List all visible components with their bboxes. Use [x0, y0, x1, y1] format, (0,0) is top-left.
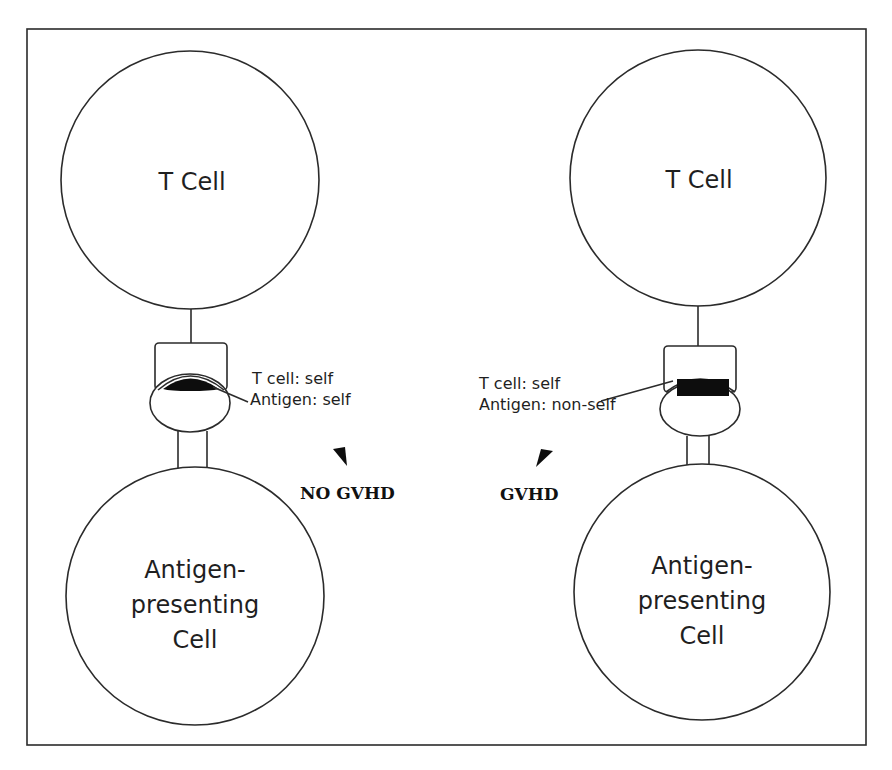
apc-label-line-1: Antigen-: [651, 552, 753, 580]
apc-label-line-2: presenting: [131, 591, 259, 619]
arrowhead-down-right-icon: [333, 447, 347, 466]
gvhd-diagram: T Cell Antigen- presenting Cell T cell: …: [0, 0, 892, 770]
apc-label-line-2: presenting: [638, 587, 766, 615]
annotation-antigen: Antigen: self: [250, 390, 351, 409]
apc-label-line-3: Cell: [680, 622, 725, 650]
outcome-label-gvhd: GVHD: [500, 484, 559, 504]
right-t-cell: T Cell: [570, 50, 826, 306]
arrowhead-down-left-icon: [536, 449, 553, 467]
annotation-antigen: Antigen: non-self: [479, 395, 616, 414]
outcome-label-no-gvhd: NO GVHD: [300, 483, 395, 503]
left-panel: T Cell Antigen- presenting Cell T cell: …: [61, 51, 395, 725]
t-cell-label: T Cell: [664, 166, 732, 194]
annotation-t-cell: T cell: self: [478, 374, 560, 393]
left-t-cell: T Cell: [61, 51, 319, 309]
non-self-antigen-icon: [677, 379, 729, 396]
t-cell-label: T Cell: [157, 168, 225, 196]
right-apc: Antigen- presenting Cell: [574, 464, 830, 720]
apc-label-line-3: Cell: [173, 626, 218, 654]
apc-label-line-1: Antigen-: [144, 556, 246, 584]
left-apc: Antigen- presenting Cell: [66, 467, 324, 725]
right-panel: T Cell Antigen- presenting Cell T cell: …: [478, 50, 830, 720]
annotation-t-cell: T cell: self: [251, 369, 333, 388]
